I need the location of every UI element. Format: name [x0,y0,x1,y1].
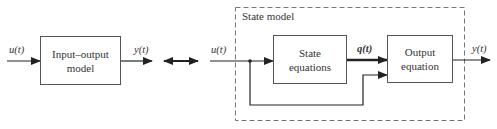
state-model-title: State model [242,10,294,22]
state-output-label: y(t) [472,43,487,54]
state-vector-label: q(t) [357,43,372,54]
output-block-line2: equation [401,59,439,73]
state-input-label: u(t) [211,44,226,55]
state-equations-block: State equations [273,35,347,84]
io-block-line1: Input–output [52,47,109,61]
io-block-line2: model [52,61,109,75]
state-block-line2: equations [289,60,331,74]
state-block-line1: State [289,46,331,60]
io-output-label: y(t) [134,44,149,55]
output-equation-block: Output equation [387,35,453,83]
input-output-model-block: Input–output model [40,36,121,85]
output-block-line1: Output [401,45,439,59]
io-input-label: u(t) [9,44,24,55]
